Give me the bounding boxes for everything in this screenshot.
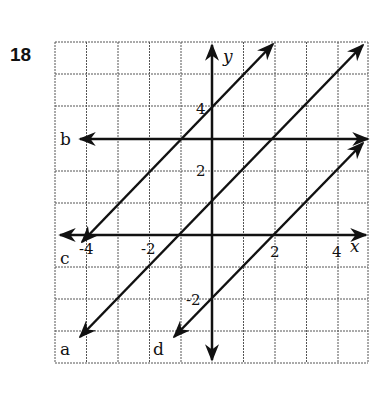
- line-label-a: a: [60, 339, 70, 359]
- line-label-c: c: [60, 248, 70, 268]
- x-axis-label: x: [350, 236, 360, 256]
- x-tick-label: -4: [79, 240, 94, 258]
- x-tick-label: 2: [270, 243, 280, 261]
- y-tick-label: -2: [186, 291, 201, 309]
- y-axis-label: y: [222, 46, 233, 66]
- line-label-b: b: [60, 129, 71, 149]
- y-tick-label: 2: [196, 162, 206, 180]
- line-label-d: d: [153, 339, 164, 359]
- y-tick-label: 4: [196, 100, 206, 118]
- x-tick-label: 4: [332, 243, 342, 261]
- coordinate-graph: y x -4 -2 2 4 4 2 -2 b c a d: [0, 0, 380, 399]
- line-a: [80, 45, 363, 337]
- x-tick-label: -2: [141, 240, 156, 258]
